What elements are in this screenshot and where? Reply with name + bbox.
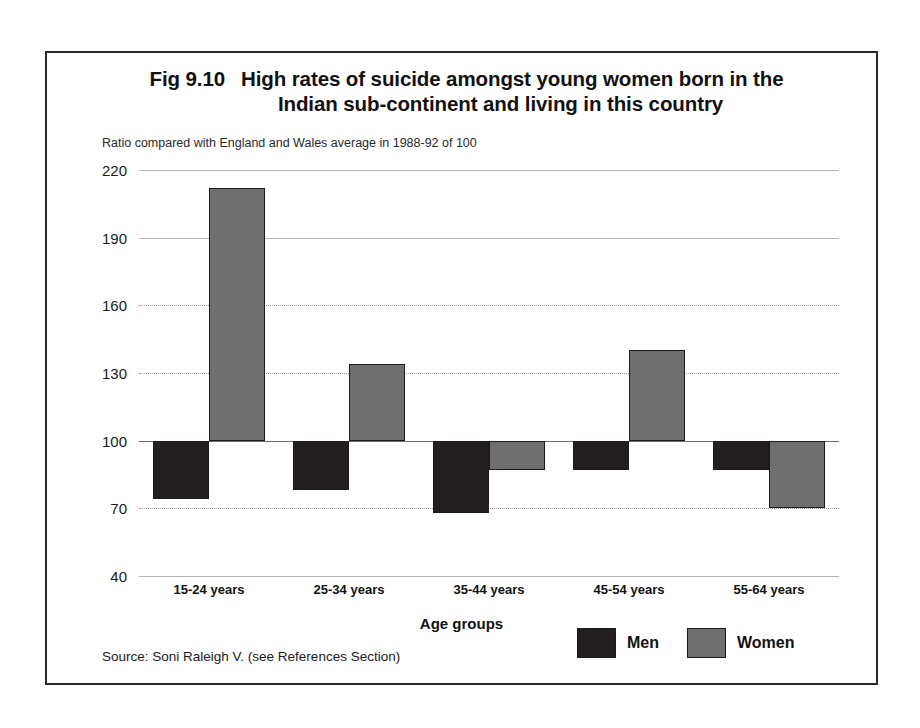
bar-women-45-54-years	[629, 350, 685, 440]
y-axis-tick-220: 220	[102, 162, 127, 179]
figure-title-line-2: Indian sub-continent and living in this …	[278, 92, 723, 115]
bar-men-35-44-years	[433, 441, 489, 513]
legend-label-women: Women	[737, 634, 794, 652]
legend-label-men: Men	[627, 634, 659, 652]
figure-title: Fig 9.10High rates of suicide amongst yo…	[47, 66, 876, 116]
gridline-220	[139, 170, 839, 171]
x-axis-label-15-24-years: 15-24 years	[174, 582, 245, 597]
bar-men-25-34-years	[293, 441, 349, 491]
x-axis-label-55-64-years: 55-64 years	[734, 582, 805, 597]
bar-men-45-54-years	[573, 441, 629, 470]
figure-subtitle: Ratio compared with England and Wales av…	[102, 136, 477, 150]
x-axis-label-45-54-years: 45-54 years	[594, 582, 665, 597]
x-axis-label-25-34-years: 25-34 years	[314, 582, 385, 597]
y-axis-tick-70: 70	[110, 500, 127, 517]
bar-women-55-64-years	[769, 441, 825, 509]
y-axis-tick-100: 100	[102, 432, 127, 449]
y-axis-tick-190: 190	[102, 229, 127, 246]
legend-swatch-men	[577, 628, 616, 658]
y-axis-tick-130: 130	[102, 365, 127, 382]
gridline-40	[139, 576, 839, 577]
x-axis-label-35-44-years: 35-44 years	[454, 582, 525, 597]
bar-women-35-44-years	[489, 441, 545, 470]
gridline-70	[139, 508, 839, 509]
figure-title-line-1: High rates of suicide amongst young wome…	[241, 67, 784, 90]
legend-item-men: Men	[577, 628, 659, 658]
legend: Men Women	[577, 628, 794, 658]
source-note: Source: Soni Raleigh V. (see References …	[102, 649, 400, 664]
bar-men-15-24-years	[153, 441, 209, 500]
figure-number: Fig 9.10	[149, 66, 225, 91]
y-axis-tick-160: 160	[102, 297, 127, 314]
bar-women-15-24-years	[209, 188, 265, 441]
bar-men-55-64-years	[713, 441, 769, 470]
y-axis-tick-40: 40	[110, 568, 127, 585]
plot-area: 220190160130100704015-24 years25-34 year…	[139, 170, 839, 576]
legend-swatch-women	[687, 628, 726, 658]
bar-women-25-34-years	[349, 364, 405, 441]
figure-frame: Fig 9.10High rates of suicide amongst yo…	[45, 51, 878, 685]
legend-item-women: Women	[687, 628, 794, 658]
